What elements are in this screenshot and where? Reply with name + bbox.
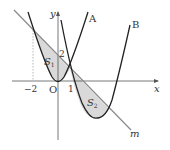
curve-a-label: A bbox=[88, 13, 97, 24]
line-m-label: m bbox=[130, 128, 139, 139]
origin-label: O bbox=[49, 84, 57, 95]
tick-label-neg2: −2 bbox=[24, 84, 37, 94]
region-s2 bbox=[70, 69, 109, 118]
region-s2-subscript: 2 bbox=[94, 102, 98, 109]
x-axis-label: x bbox=[154, 83, 160, 94]
diagram: y x O −2 1 2 A B m S1 S2 bbox=[0, 0, 170, 150]
curve-b-label: B bbox=[132, 19, 139, 30]
tick-label-1: 1 bbox=[68, 84, 74, 94]
y-axis-arrow-icon bbox=[56, 11, 60, 16]
tick-label-2: 2 bbox=[59, 49, 65, 59]
region-s1-subscript: 1 bbox=[51, 61, 55, 68]
line-m bbox=[14, 10, 131, 130]
y-axis-label: y bbox=[49, 8, 56, 19]
